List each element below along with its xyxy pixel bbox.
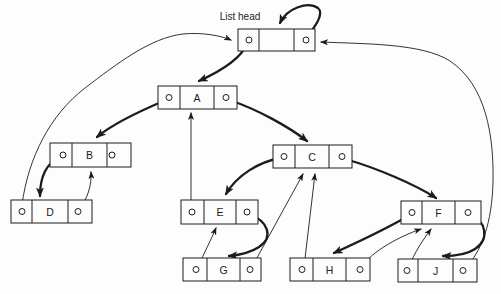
node-B-llink-pin [60,152,66,158]
node-G-label: G [219,264,227,276]
node-E-label: E [216,206,223,218]
link-c-llink-to-e [226,158,280,194]
node-H: H [290,258,370,281]
node-A: A [158,86,237,109]
node-D-rlink-pin [75,209,81,215]
node-F: F [401,201,481,224]
node-C: C [273,145,352,168]
node-A-label: A [193,92,200,104]
link-f-llink-to-h [334,215,410,253]
link-c-rlink-to-f [345,159,436,198]
link-a-rlink-to-c [229,100,307,141]
node-F-rlink-pin [465,210,471,216]
node-J: J [398,259,477,282]
node-H-rlink-pin [357,267,363,273]
node-head-llink-pin [246,37,252,43]
node-F-llink-pin [409,210,415,216]
node-C-rlink-pin [339,154,345,160]
node-B-label: B [86,149,93,161]
node-E-rlink-pin [244,209,250,215]
node-J-llink-pin [404,268,410,274]
node-A-llink-pin [166,95,172,101]
node-B-rlink-pin [109,152,115,158]
node-G-llink-pin [193,267,199,273]
node-E: E [181,200,258,224]
node-C-llink-pin [281,154,287,160]
node-G: G [183,258,261,281]
node-E-llink-pin [189,209,195,215]
node-H-label: H [326,264,334,276]
linked-list-diagram: List head ABCDEFGHJ [0,0,501,294]
nodes-layer: ABCDEFGHJ [11,29,481,282]
node-A-rlink-pin [223,95,229,101]
link-a-llink-to-b [97,100,166,137]
node-J-label: J [433,265,438,277]
node-D-label: D [46,206,54,218]
link-h-llink-to-c [304,174,315,267]
list-head-label: List head [220,11,261,22]
node-D: D [11,200,92,223]
node-head-rlink-pin [303,37,309,43]
node-D-llink-pin [19,209,25,215]
node-J-rlink-pin [460,268,466,274]
node-C-label: C [308,151,316,163]
node-G-rlink-pin [247,267,253,273]
node-F-label: F [435,207,441,219]
node-B: B [50,143,131,167]
node-H-llink-pin [299,267,305,273]
figure-canvas: List head ABCDEFGHJ [0,0,501,294]
node-head [238,29,315,51]
